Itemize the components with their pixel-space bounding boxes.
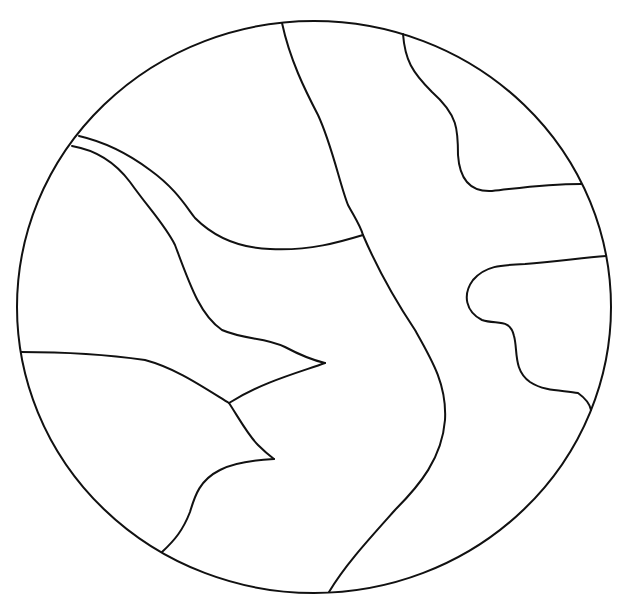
river-center-line (282, 23, 445, 592)
right-peninsula-line (467, 256, 606, 410)
outline-map (0, 0, 623, 607)
lower-left-spur-line (162, 459, 274, 552)
upper-left-boundary-inner-line (72, 146, 325, 363)
upper-left-boundary-outer-line (79, 136, 363, 249)
river-upper-right-line (403, 34, 581, 191)
spur-middle-line (229, 363, 325, 403)
lower-left-boundary-line (21, 352, 274, 459)
region-boundary-lines (21, 23, 606, 592)
